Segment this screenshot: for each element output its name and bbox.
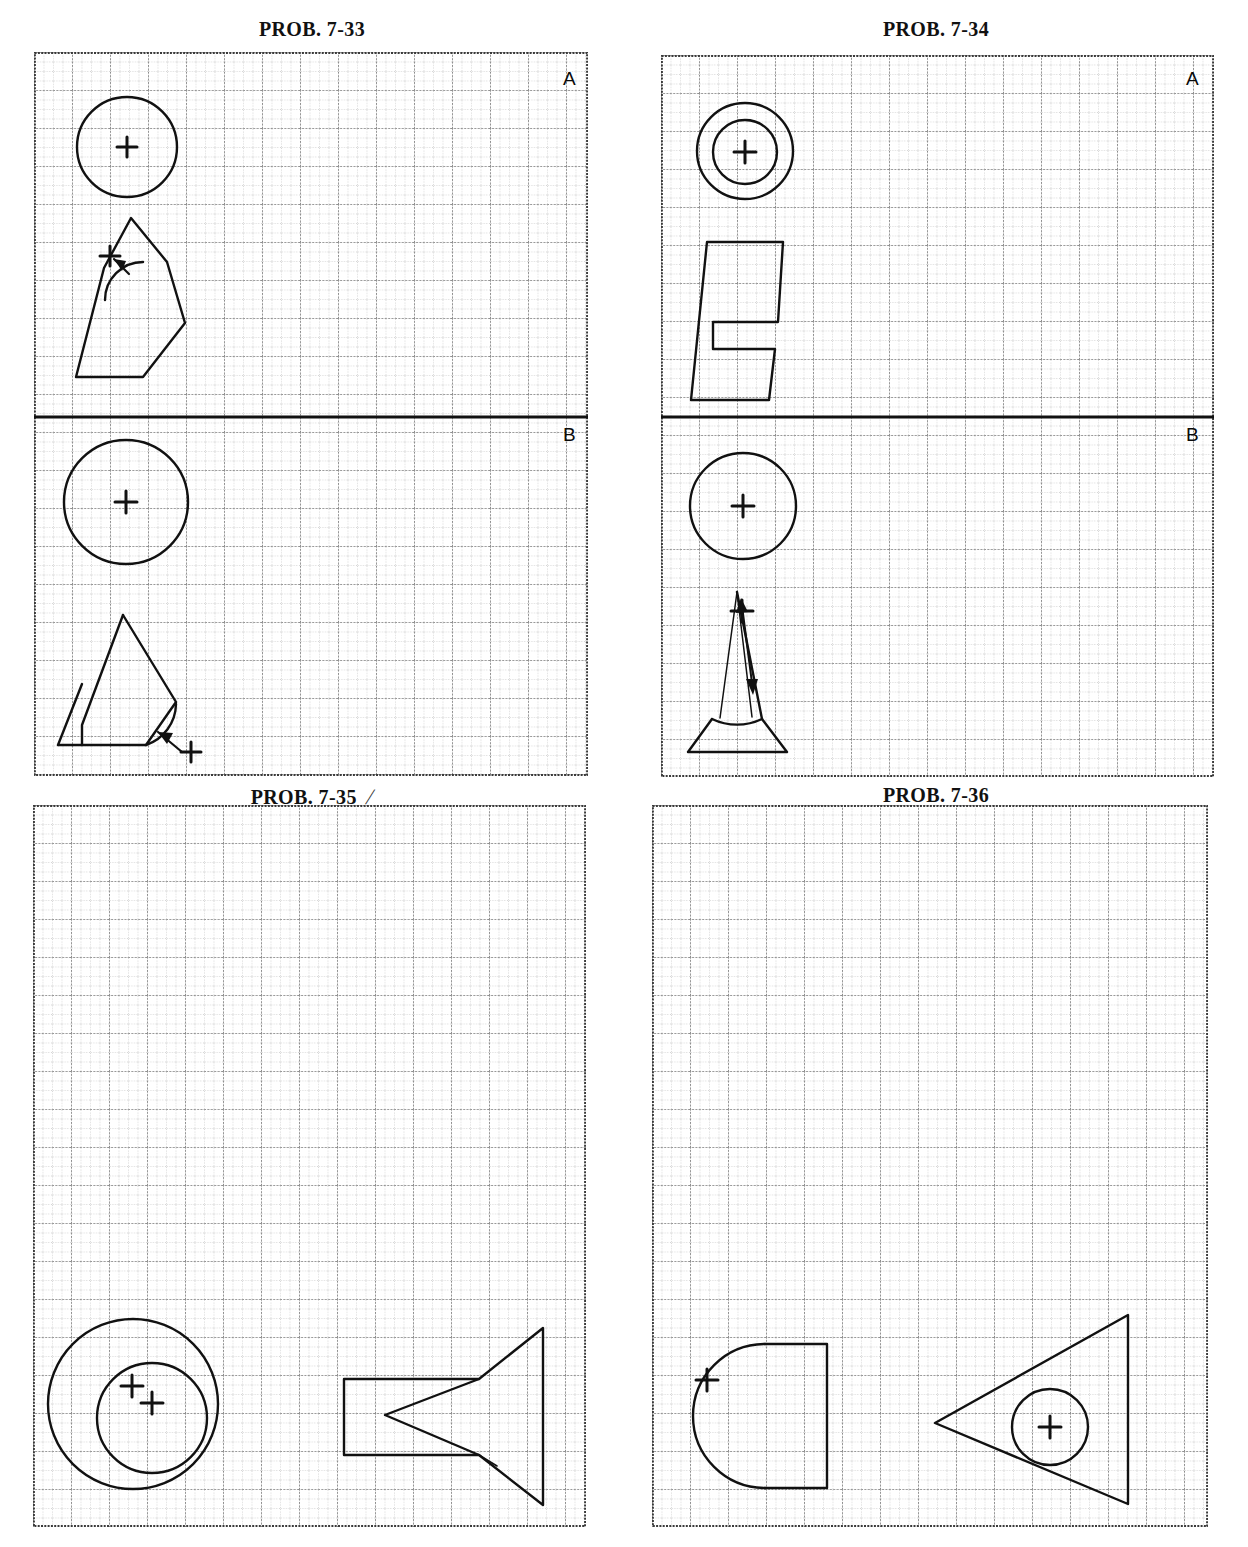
grid-svg-7-35 [33,805,586,1527]
corner-label-b-7-33: B [563,424,576,446]
drawing-grid-prob-7-36 [652,805,1208,1527]
panel-prob-7-33: PROB. 7-33 [0,0,624,790]
panel-title-text: PROB. 7-34 [883,18,989,40]
panel-title-prob-7-33: PROB. 7-33 [0,18,624,41]
panel-title-prob-7-36: PROB. 7-36 [624,784,1248,807]
drawing-grid-prob-7-35 [33,805,586,1527]
drawing-grid-prob-7-33 [34,52,588,776]
panel-title-prob-7-34: PROB. 7-34 [624,18,1248,41]
panel-prob-7-36: PROB. 7-36 [624,775,1248,1547]
drawing-grid-prob-7-34 [661,55,1214,777]
corner-label-a-7-33: A [563,68,576,90]
panel-prob-7-34: PROB. 7-34 [624,0,1248,790]
grid-svg-7-36 [652,805,1208,1527]
grid-svg-7-34 [661,55,1214,777]
panel-title-text: PROB. 7-36 [883,784,989,806]
grid-svg-7-33 [34,52,588,776]
corner-label-b-7-34: B [1186,424,1199,446]
panel-title-text: PROB. 7-33 [259,18,365,40]
worksheet-sheet: PROB. 7-33 [0,0,1248,1547]
panel-prob-7-35: PROB. 7-35/ [0,775,624,1547]
corner-label-a-7-34: A [1186,68,1199,90]
